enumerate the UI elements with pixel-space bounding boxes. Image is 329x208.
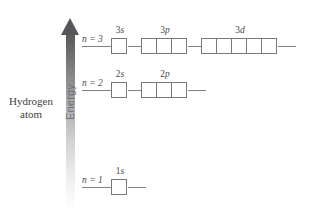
orbital-group-2p: 2p (142, 82, 188, 98)
level-lead-line-n3 (82, 46, 112, 47)
orbital-group-3d: 3d (202, 38, 278, 54)
orbital-group-3s: 3s (112, 38, 128, 54)
orbital-label-letter: s (121, 25, 125, 35)
diagram-title-line-1: Hydrogen (2, 95, 60, 108)
orbital-label-3p: 3p (142, 25, 188, 35)
orbital-label-letter: s (121, 69, 125, 79)
orbital-label-3d: 3d (202, 25, 278, 35)
orbital-box[interactable] (171, 38, 187, 54)
orbital-connector (128, 46, 142, 47)
orbital-box[interactable] (111, 38, 127, 54)
orbital-connector (128, 90, 142, 91)
level-tail-line-n2 (188, 90, 206, 91)
level-tail-line-n1 (128, 187, 146, 188)
orbital-group-2s: 2s (112, 82, 128, 98)
orbital-label-1s: 1s (112, 166, 128, 176)
diagram-title-line-2: atom (2, 108, 60, 121)
orbital-box[interactable] (141, 38, 157, 54)
orbital-label-letter: p (165, 69, 170, 79)
level-lead-line-n1 (82, 187, 112, 188)
orbital-box[interactable] (261, 38, 277, 54)
orbital-box[interactable] (216, 38, 232, 54)
orbital-label-2p: 2p (142, 69, 188, 79)
orbital-group-1s: 1s (112, 179, 128, 195)
orbital-box[interactable] (111, 179, 127, 195)
orbital-label-3s: 3s (112, 25, 128, 35)
diagram-title: Hydrogen atom (2, 95, 60, 121)
orbital-connector (188, 46, 202, 47)
orbital-box[interactable] (231, 38, 247, 54)
orbital-label-letter: d (240, 25, 245, 35)
orbital-group-3p: 3p (142, 38, 188, 54)
energy-axis-arrow: Energy (62, 10, 78, 208)
level-label-n1: n = 1 (82, 175, 103, 185)
orbital-box[interactable] (141, 82, 157, 98)
orbital-label-letter: s (121, 166, 125, 176)
level-lead-line-n2 (82, 90, 112, 91)
orbital-box[interactable] (171, 82, 187, 98)
level-label-n2: n = 2 (82, 78, 103, 88)
level-tail-line-n3 (278, 46, 296, 47)
orbital-box[interactable] (246, 38, 262, 54)
orbital-box[interactable] (156, 38, 172, 54)
orbital-label-letter: p (165, 25, 170, 35)
hydrogen-energy-level-diagram: Energy Hydrogen atom n = 33s3p3dn = 22s2… (0, 0, 329, 208)
level-label-n3: n = 3 (82, 34, 103, 44)
arrow-shaft (66, 32, 75, 208)
orbital-box[interactable] (111, 82, 127, 98)
orbital-box[interactable] (156, 82, 172, 98)
orbital-box[interactable] (201, 38, 217, 54)
orbital-label-2s: 2s (112, 69, 128, 79)
